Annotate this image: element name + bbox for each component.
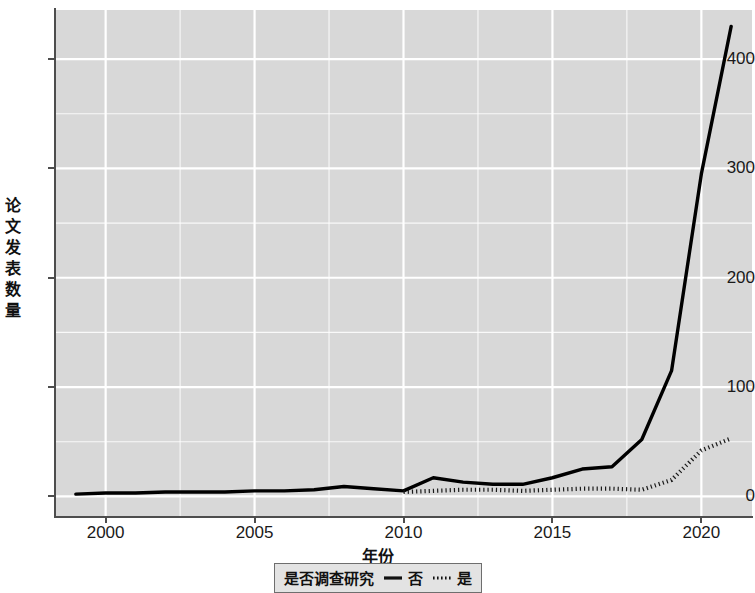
y-tick-mark [48,277,54,279]
y-tick-label: 400 [709,49,755,69]
x-tick-mark [403,518,405,523]
x-tick-label: 2015 [534,523,572,543]
x-tick-label: 2010 [385,523,423,543]
solid-line-icon [383,571,403,585]
x-tick-label: 2000 [87,523,125,543]
y-tick-label: 300 [709,158,755,178]
legend-item-solid[interactable]: 否 [383,567,423,588]
x-tick-label: 2005 [236,523,274,543]
y-tick-label: 0 [709,486,755,506]
dotted-line-icon [432,571,452,585]
y-tick-label: 100 [709,377,755,397]
x-tick-label: 2020 [682,523,720,543]
y-tick-label: 200 [709,268,755,288]
x-tick-mark [105,518,107,523]
plot-area [55,10,752,516]
x-tick-mark [700,518,702,523]
legend-item-dotted[interactable]: 是 [432,567,472,588]
y-axis-line [54,8,56,518]
series-line-2 [404,438,732,492]
y-tick-mark [48,495,54,497]
chart-legend: 是否调查研究 否 是 [274,563,482,593]
legend-title: 是否调查研究 [284,567,374,588]
y-tick-mark [48,167,54,169]
x-tick-mark [551,518,553,523]
y-axis-title: 论文发表数量 [2,195,24,321]
plot-panel [55,10,752,516]
legend-label-solid: 否 [408,567,423,588]
y-tick-mark [48,58,54,60]
gridlines-vertical [106,10,702,516]
x-tick-mark [254,518,256,523]
y-tick-mark [48,386,54,388]
legend-label-dotted: 是 [457,567,472,588]
